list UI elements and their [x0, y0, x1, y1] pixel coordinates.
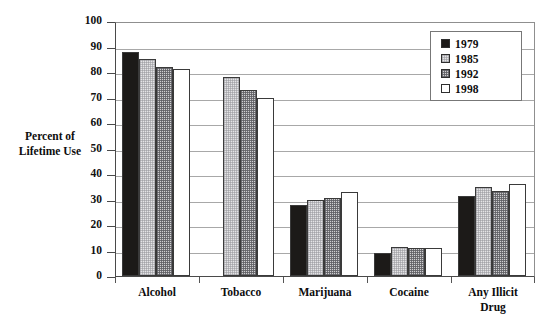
y-tick: 40 [0, 175, 115, 176]
legend-swatch-icon [441, 54, 450, 63]
bar [458, 196, 475, 276]
bar [475, 187, 492, 276]
legend-label: 1979 [455, 38, 479, 50]
y-tick: 30 [0, 201, 115, 202]
bar [492, 191, 509, 276]
y-tick-mark [107, 252, 115, 253]
y-tick-label: 50 [91, 142, 103, 154]
bar-group [284, 23, 368, 276]
y-tick-label: 60 [91, 116, 103, 128]
legend-item[interactable]: 1979 [431, 36, 521, 51]
y-tick-mark [107, 48, 115, 49]
legend-label: 1998 [455, 83, 479, 95]
y-tick-mark [107, 175, 115, 176]
y-tick-label: 100 [85, 14, 102, 26]
y-tick-mark [107, 124, 115, 125]
x-axis-label-line1: Any Illicit [451, 285, 535, 300]
y-tick-mark [107, 277, 115, 278]
bar [240, 90, 257, 276]
y-axis: 0102030405060708090100 [0, 0, 115, 321]
x-axis-label: Marijuana [283, 285, 367, 300]
bar [139, 59, 156, 276]
x-axis-label: Any IllicitDrug [451, 285, 535, 315]
legend-item[interactable]: 1998 [431, 81, 521, 96]
y-tick: 90 [0, 48, 115, 49]
bar [324, 198, 341, 276]
x-axis-label-line1: Alcohol [115, 285, 199, 300]
x-tick-mark [199, 277, 200, 283]
x-axis-label-line1: Cocaine [367, 285, 451, 300]
x-axis-ticks [115, 277, 535, 284]
y-tick-label: 70 [91, 91, 103, 103]
bar [509, 184, 526, 276]
bar [408, 248, 425, 276]
y-tick-label: 90 [91, 40, 103, 52]
bar-group [116, 23, 200, 276]
legend-label: 1992 [455, 68, 479, 80]
y-tick-mark [107, 150, 115, 151]
y-tick-mark [107, 201, 115, 202]
bar [391, 247, 408, 276]
y-tick: 10 [0, 252, 115, 253]
x-axis-label-line1: Tobacco [199, 285, 283, 300]
x-axis-label-line1: Marijuana [283, 285, 367, 300]
bar-group [200, 23, 284, 276]
x-axis-label: Cocaine [367, 285, 451, 300]
x-axis-label: Alcohol [115, 285, 199, 300]
y-tick-mark [107, 99, 115, 100]
y-tick: 80 [0, 73, 115, 74]
x-axis-label-line2: Drug [451, 300, 535, 315]
bar [290, 205, 307, 276]
legend-swatch-icon [441, 39, 450, 48]
y-tick-mark [107, 226, 115, 227]
y-tick: 50 [0, 150, 115, 151]
y-tick-label: 10 [91, 244, 103, 256]
x-tick-mark [367, 277, 368, 283]
bar [425, 248, 442, 276]
y-tick: 100 [0, 22, 115, 23]
y-tick-label: 80 [91, 65, 103, 77]
bar [156, 67, 173, 276]
x-tick-mark [451, 277, 452, 283]
legend: 1979198519921998 [430, 31, 522, 101]
y-tick-label: 20 [91, 218, 103, 230]
legend-swatch-icon [441, 69, 450, 78]
legend-swatch-icon [441, 84, 450, 93]
y-tick-mark [107, 22, 115, 23]
bar-chart: Percent of Lifetime Use 0102030405060708… [0, 0, 541, 321]
y-tick: 20 [0, 226, 115, 227]
y-tick-label: 0 [96, 269, 102, 281]
bar [257, 98, 274, 277]
y-tick: 60 [0, 124, 115, 125]
legend-item[interactable]: 1992 [431, 66, 521, 81]
x-axis-labels: AlcoholTobaccoMarijuanaCocaineAny Illici… [0, 285, 541, 321]
bar [173, 69, 190, 276]
bar [122, 52, 139, 276]
x-tick-mark [534, 277, 535, 283]
bar [307, 200, 324, 277]
bar [223, 77, 240, 276]
legend-item[interactable]: 1985 [431, 51, 521, 66]
y-tick-label: 30 [91, 193, 103, 205]
y-tick-mark [107, 73, 115, 74]
x-tick-mark [283, 277, 284, 283]
legend-label: 1985 [455, 53, 479, 65]
y-tick-label: 40 [91, 167, 103, 179]
bar [341, 192, 358, 276]
x-tick-mark [115, 277, 116, 283]
y-tick: 0 [0, 277, 115, 278]
bar [374, 253, 391, 276]
x-axis-label: Tobacco [199, 285, 283, 300]
y-tick: 70 [0, 99, 115, 100]
